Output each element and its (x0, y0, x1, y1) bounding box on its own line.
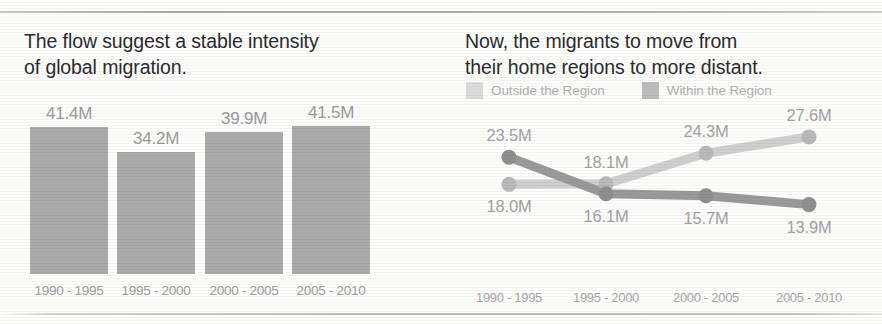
chart-legend: Outside the RegionWithin the Region (466, 82, 800, 99)
line-data-point[interactable] (502, 177, 517, 192)
bar-x-axis-label: 2005 - 2010 (292, 283, 370, 298)
legend-swatch-icon (642, 82, 659, 99)
bar-chart: 41.4M1990 - 199534.2M1995 - 200039.9M200… (0, 100, 441, 300)
right-panel-headline: Now, the migrants to move from their hom… (465, 28, 870, 80)
line-data-point[interactable] (699, 188, 714, 203)
line-x-axis-label: 2000 - 2005 (673, 290, 739, 305)
bottom-divider-rule (0, 313, 882, 315)
bar-value-label: 41.4M (30, 104, 108, 124)
line-value-label: 13.9M (787, 218, 832, 237)
line-data-point[interactable] (599, 186, 614, 201)
top-divider-rule (0, 11, 882, 13)
bar-value-label: 34.2M (117, 129, 195, 149)
legend-label: Within the Region (667, 83, 772, 98)
line-value-label: 27.6M (787, 106, 832, 125)
line-value-label: 18.0M (487, 197, 532, 216)
bar-x-axis-label: 1990 - 1995 (30, 283, 108, 298)
line-data-point[interactable] (699, 146, 714, 161)
line-data-point[interactable] (802, 129, 817, 144)
bar-value-label: 41.5M (292, 103, 370, 123)
bar-rect[interactable] (30, 127, 108, 274)
line-chart: 23.5M16.1M15.7M13.9M18.0M18.1M24.3M27.6M… (441, 110, 882, 305)
bar-rect[interactable] (117, 152, 195, 274)
legend-swatch-icon (466, 82, 483, 99)
line-data-point[interactable] (802, 197, 817, 212)
bar-value-label: 39.9M (205, 109, 283, 129)
legend-item[interactable]: Outside the Region (466, 82, 605, 99)
line-value-label: 15.7M (684, 209, 729, 228)
line-value-label: 23.5M (487, 126, 532, 145)
left-panel: The flow suggest a stable intensity of g… (0, 18, 441, 308)
bar-column: 41.5M2005 - 2010 (292, 100, 370, 274)
bar-x-axis-label: 2000 - 2005 (205, 283, 283, 298)
line-value-label: 18.1M (584, 153, 629, 172)
bar-column: 39.9M2000 - 2005 (205, 106, 283, 274)
legend-label: Outside the Region (491, 83, 605, 98)
line-data-point[interactable] (502, 150, 517, 165)
line-x-axis-label: 1990 - 1995 (476, 290, 542, 305)
bar-rect[interactable] (205, 132, 283, 274)
bar-rect[interactable] (292, 126, 370, 274)
left-panel-headline: The flow suggest a stable intensity of g… (24, 28, 424, 80)
line-value-label: 16.1M (584, 207, 629, 226)
right-panel: Now, the migrants to move from their hom… (441, 18, 882, 308)
line-x-axis-label: 2005 - 2010 (776, 290, 842, 305)
bar-x-axis-label: 1995 - 2000 (117, 283, 195, 298)
line-value-label: 24.3M (684, 122, 729, 141)
bar-column: 34.2M1995 - 2000 (117, 126, 195, 274)
legend-item[interactable]: Within the Region (642, 82, 772, 99)
bar-column: 41.4M1990 - 1995 (30, 101, 108, 274)
line-x-axis-label: 1995 - 2000 (573, 290, 639, 305)
